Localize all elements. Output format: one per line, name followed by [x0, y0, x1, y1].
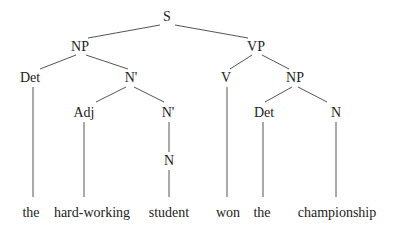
node-n2: N [331, 105, 341, 120]
node-n1: N [164, 153, 174, 168]
node-s: S [163, 9, 171, 24]
edge-np1-det1 [40, 55, 76, 69]
node-vp: VP [247, 39, 265, 54]
word-hardworking: hard-working [54, 205, 130, 220]
node-nbar1: N' [125, 70, 138, 85]
node-det1: Det [20, 70, 40, 85]
word-student: student [149, 205, 190, 220]
edge-np2-n2 [298, 87, 327, 102]
node-np1: NP [71, 39, 89, 54]
word-won: won [216, 205, 240, 220]
edge-np2-det2 [265, 87, 292, 102]
edge-np1-nbar1 [86, 55, 128, 69]
edge-vp-v [230, 55, 252, 69]
word-championship: championship [298, 205, 377, 220]
edge-s-vp [175, 25, 248, 38]
edge-s-np1 [88, 25, 160, 38]
syntax-tree-diagram: SNPVPDetN'VNPAdjN'DetNN thehard-workings… [0, 0, 399, 229]
word-the2: the [253, 205, 270, 220]
node-adj: Adj [74, 105, 95, 120]
node-det2: Det [254, 105, 274, 120]
tree-nodes: SNPVPDetN'VNPAdjN'DetNN [20, 9, 341, 168]
edge-vp-np2 [262, 55, 289, 69]
node-v: V [221, 70, 231, 85]
word-the1: the [22, 205, 39, 220]
edge-nbar1-nbar2 [134, 87, 164, 102]
sentence-words: thehard-workingstudentwonthechampionship [22, 205, 376, 220]
edge-nbar1-adj [96, 87, 126, 102]
node-np2: NP [286, 70, 304, 85]
node-nbar2: N' [162, 105, 175, 120]
